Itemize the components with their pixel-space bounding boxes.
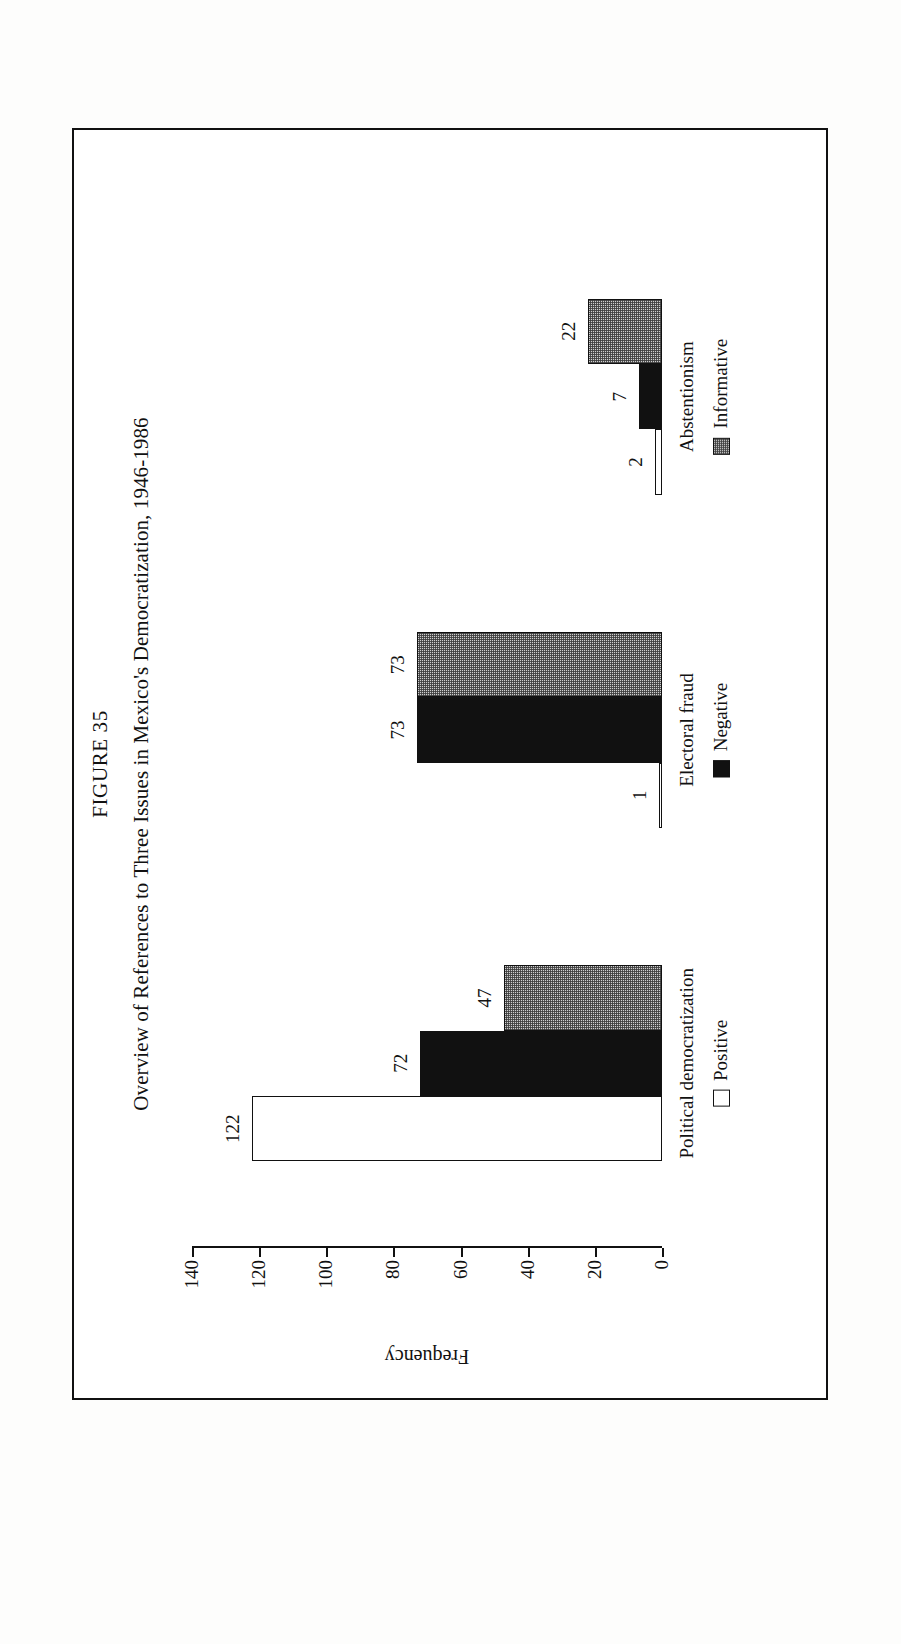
- bar-value-label: 122: [222, 1114, 244, 1143]
- bar-value-label: 47: [474, 989, 496, 1008]
- y-axis-tick: [528, 1248, 530, 1257]
- legend-item-positive[interactable]: Positive: [710, 1020, 732, 1107]
- y-axis-tick: [192, 1248, 194, 1257]
- y-axis-line: [192, 1246, 662, 1248]
- figure-number: FIGURE 35: [88, 130, 113, 1398]
- bar-positive: [659, 763, 662, 828]
- category-label: Abstentionism: [676, 341, 698, 452]
- bar-value-label: 2: [625, 457, 647, 467]
- y-axis-tick-label: 140: [181, 1260, 203, 1300]
- scanned-page: FIGURE 35 Overview of References to Thre…: [0, 0, 901, 1644]
- bar-informative: [504, 965, 662, 1030]
- bar-value-label: 72: [390, 1054, 412, 1073]
- bar-positive: [252, 1096, 662, 1161]
- legend-item-negative[interactable]: Negative: [710, 683, 732, 778]
- y-axis-label: Frequency: [385, 1345, 469, 1368]
- y-axis-tick-label: 20: [584, 1260, 606, 1300]
- bar-positive: [655, 429, 662, 494]
- bar-negative: [639, 364, 663, 429]
- y-axis-tick-label: 0: [651, 1260, 673, 1300]
- legend-label: Informative: [710, 339, 732, 429]
- y-axis-tick: [393, 1248, 395, 1257]
- category-label: Electoral fraud: [676, 673, 698, 786]
- legend-label: Negative: [710, 683, 732, 752]
- figure-frame: FIGURE 35 Overview of References to Thre…: [72, 128, 828, 1400]
- y-axis-tick-label: 120: [248, 1260, 270, 1300]
- figure-heading: FIGURE 35 Overview of References to Thre…: [88, 130, 154, 1398]
- figure-title: Overview of References to Three Issues i…: [129, 130, 154, 1398]
- bar-negative: [420, 1031, 662, 1096]
- chart-legend: PositiveNegativeInformative: [710, 248, 750, 1248]
- y-axis-tick-label: 40: [517, 1260, 539, 1300]
- y-axis-tick-label: 100: [315, 1260, 337, 1300]
- bar-informative: [417, 632, 662, 697]
- legend-label: Positive: [710, 1020, 732, 1081]
- legend-swatch-icon: [713, 438, 730, 455]
- bar-value-label: 73: [387, 721, 409, 740]
- legend-item-informative[interactable]: Informative: [710, 339, 732, 455]
- y-axis-tick-label: 80: [382, 1260, 404, 1300]
- bar-negative: [417, 697, 662, 762]
- y-axis-tick: [595, 1248, 597, 1257]
- plot-area: Frequency 140120100806040200 1227247Poli…: [192, 248, 662, 1248]
- bar-value-label: 7: [609, 392, 631, 402]
- bar-value-label: 22: [558, 322, 580, 341]
- bar-value-label: 1: [629, 791, 651, 801]
- y-axis-tick: [326, 1248, 328, 1257]
- legend-swatch-icon: [713, 1090, 730, 1107]
- y-axis-tick: [461, 1248, 463, 1257]
- bar-value-label: 73: [387, 655, 409, 674]
- y-axis-tick-label: 60: [450, 1260, 472, 1300]
- category-label: Political democratization: [676, 968, 698, 1158]
- rotated-figure-canvas: FIGURE 35 Overview of References to Thre…: [74, 130, 826, 1398]
- bar-informative: [588, 299, 662, 364]
- y-axis-tick: [662, 1248, 664, 1257]
- y-axis-tick: [259, 1248, 261, 1257]
- legend-swatch-icon: [713, 760, 730, 777]
